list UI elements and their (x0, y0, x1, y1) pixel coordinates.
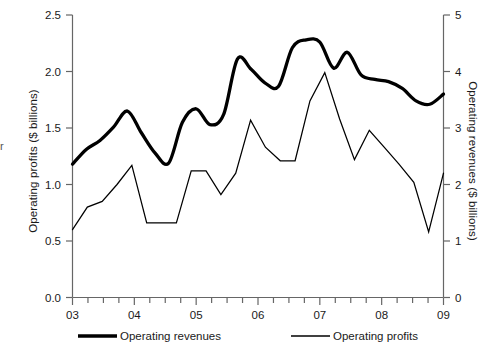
axis-tick-label: 2.0 (45, 66, 61, 78)
y-axis-right-ticks: 012345 (444, 9, 463, 304)
plot-canvas: 0.00.51.01.52.02.5 012345 03040506070809 (0, 0, 498, 361)
axis-tick-label: 0 (455, 292, 461, 304)
axis-tick-label: 5 (455, 9, 461, 21)
data-series-group (73, 39, 444, 232)
axis-tick-label: 03 (66, 309, 79, 321)
axis-tick-label: 1.0 (45, 179, 61, 191)
y-axis-left-ticks: 0.00.51.01.52.02.5 (45, 9, 73, 304)
axis-tick-label: 06 (252, 309, 265, 321)
axis-tick-label: 0.5 (45, 235, 61, 247)
axis-tick-label: 2 (455, 179, 461, 191)
axis-tick-label: 1 (455, 235, 461, 247)
axis-tick-label: 08 (375, 309, 388, 321)
axis-tick-label: 05 (190, 309, 203, 321)
axis-tick-label: 09 (437, 309, 450, 321)
axis-tick-label: 07 (313, 309, 326, 321)
series-line-operating-profits (73, 73, 444, 232)
axis-tick-label: 3 (455, 122, 461, 134)
chart-figure: r Operating profits ($ billions) Operati… (0, 0, 498, 361)
axis-tick-label: 1.5 (45, 122, 61, 134)
x-axis-ticks: 03040506070809 (66, 298, 450, 322)
axis-tick-label: 2.5 (45, 9, 61, 21)
axes-group (73, 15, 444, 298)
axis-tick-label: 4 (455, 66, 462, 78)
axis-tick-label: 0.0 (45, 292, 61, 304)
series-line-operating-revenues (73, 39, 444, 165)
axis-tick-label: 04 (128, 309, 141, 321)
